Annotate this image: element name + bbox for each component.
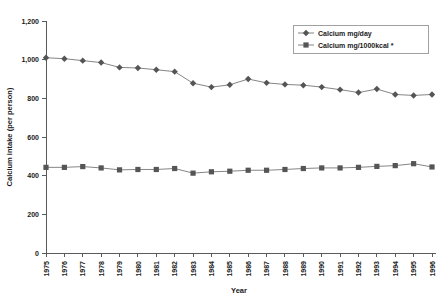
series-line — [46, 164, 432, 173]
data-point — [227, 82, 233, 88]
data-point — [300, 82, 306, 88]
data-point — [392, 91, 398, 97]
data-point — [282, 81, 288, 87]
data-point — [80, 57, 86, 63]
x-axis-tick-label: 1992 — [355, 261, 362, 277]
series-line — [46, 58, 432, 96]
data-point — [190, 80, 196, 86]
data-point — [264, 168, 269, 173]
series-1 — [43, 55, 435, 99]
series-2 — [43, 161, 434, 176]
data-point — [355, 89, 361, 95]
data-point — [246, 168, 251, 173]
y-axis-tick-label: 400 — [27, 172, 39, 179]
x-axis-tick-label: 1975 — [43, 261, 50, 277]
data-point — [429, 91, 435, 97]
data-point — [62, 165, 67, 170]
data-point — [99, 165, 104, 170]
data-point — [116, 64, 122, 70]
data-point — [374, 86, 380, 92]
data-point — [411, 161, 416, 166]
x-axis-tick-label: 1996 — [429, 261, 436, 277]
data-point — [135, 167, 140, 172]
line-chart: 02004006008001,0001,20019751976197719781… — [0, 0, 442, 301]
data-point — [393, 163, 398, 168]
y-axis-tick-label: 800 — [27, 95, 39, 102]
data-point — [80, 164, 85, 169]
y-axis-tick-label: 1,000 — [21, 56, 39, 64]
data-point — [245, 76, 251, 82]
y-axis-tick-label: 0 — [35, 250, 39, 257]
data-point — [282, 167, 287, 172]
y-axis-tick-label: 200 — [27, 211, 39, 218]
x-axis-tick-label: 1977 — [79, 261, 86, 277]
data-point — [172, 166, 177, 171]
legend: Calcium mg/dayCalcium mg/1000kcal * — [293, 25, 428, 53]
x-axis-tick-label: 1984 — [208, 261, 215, 277]
x-axis-tick-label: 1978 — [98, 261, 105, 277]
y-axis-tick-label: 600 — [27, 134, 39, 141]
x-axis-tick-label: 1991 — [337, 261, 344, 277]
data-point — [43, 165, 48, 170]
x-axis-tick-label: 1990 — [318, 261, 325, 277]
data-point — [374, 164, 379, 169]
y-axis-tick-label: 1,200 — [21, 18, 39, 26]
data-point — [301, 166, 306, 171]
x-axis-tick-label: 1988 — [282, 261, 289, 277]
legend-marker-icon — [303, 42, 308, 47]
data-point — [209, 169, 214, 174]
x-axis-tick-label: 1993 — [373, 261, 380, 277]
x-axis-tick-label: 1985 — [226, 261, 233, 277]
data-point — [337, 86, 343, 92]
x-axis-title: Year — [231, 286, 247, 295]
x-axis-tick-label: 1987 — [263, 261, 270, 277]
data-point — [135, 65, 141, 71]
data-point — [171, 68, 177, 74]
data-point — [319, 165, 324, 170]
data-point — [154, 167, 159, 172]
data-point — [190, 171, 195, 176]
y-axis-title: Calcium intake (per person) — [5, 87, 14, 186]
data-point — [208, 84, 214, 90]
x-axis-tick-label: 1989 — [300, 261, 307, 277]
x-axis-tick-label: 1995 — [410, 261, 417, 277]
data-point — [429, 164, 434, 169]
data-point — [227, 169, 232, 174]
data-point — [263, 80, 269, 86]
legend-label: Calcium mg/day — [318, 30, 372, 38]
data-point — [337, 165, 342, 170]
x-axis-tick-label: 1982 — [171, 261, 178, 277]
data-point — [356, 165, 361, 170]
x-axis-tick-label: 1994 — [392, 261, 399, 277]
x-axis-tick-label: 1986 — [245, 261, 252, 277]
x-axis-tick-label: 1983 — [190, 261, 197, 277]
data-point — [410, 92, 416, 98]
data-point — [98, 59, 104, 65]
x-axis-tick-label: 1981 — [153, 261, 160, 277]
x-axis-tick-label: 1976 — [61, 261, 68, 277]
data-point — [153, 67, 159, 73]
x-axis-tick-label: 1979 — [116, 261, 123, 277]
legend-label: Calcium mg/1000kcal * — [318, 42, 394, 50]
chart-page: 02004006008001,0001,20019751976197719781… — [0, 0, 442, 301]
data-point — [319, 84, 325, 90]
x-axis-tick-label: 1980 — [135, 261, 142, 277]
data-point — [117, 167, 122, 172]
data-point — [61, 56, 67, 62]
